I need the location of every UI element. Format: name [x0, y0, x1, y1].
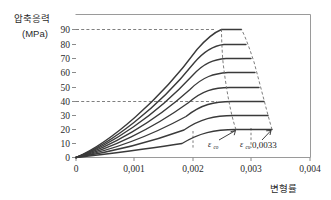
xtick-label-3: 0,003 [240, 164, 262, 174]
eps-co-subscript: co [214, 144, 219, 150]
y-axis-unit: (MPa) [22, 28, 48, 39]
ytick-label-10: 10 [61, 139, 71, 149]
x-axis-title: 변형률 [270, 183, 297, 194]
xtick-label-4: 0,004 [299, 164, 321, 174]
y-axis-title: 압축응력 [14, 13, 50, 24]
eps-cu-subscript: cu [246, 144, 251, 150]
ytick-label-40: 40 [61, 97, 71, 107]
chart-canvas: 0 10 20 30 40 50 60 70 80 90 0 0,001 0,0… [0, 0, 331, 200]
ytick-label-80: 80 [61, 40, 71, 50]
xtick-label-2: 0,002 [182, 164, 204, 174]
ytick-label-20: 20 [61, 125, 71, 135]
ytick-label-0: 0 [65, 153, 70, 163]
ytick-label-60: 60 [61, 68, 71, 78]
eps-value-label: 0,0033 [252, 140, 277, 150]
chart-background [0, 0, 331, 200]
xtick-label-0: 0 [74, 164, 79, 174]
stress-strain-chart: 0 10 20 30 40 50 60 70 80 90 0 0,001 0,0… [0, 0, 331, 200]
ytick-label-50: 50 [61, 83, 71, 93]
ytick-label-70: 70 [61, 54, 71, 64]
ytick-label-30: 30 [61, 111, 71, 121]
xtick-label-1: 0,001 [123, 164, 145, 174]
ytick-label-90: 90 [61, 25, 71, 35]
